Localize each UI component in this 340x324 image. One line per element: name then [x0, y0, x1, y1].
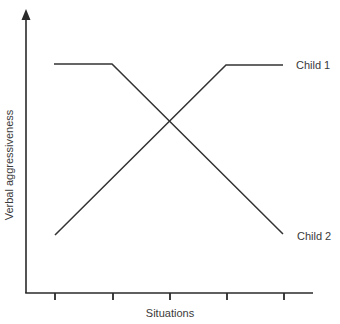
x-axis-ticks	[55, 293, 284, 300]
series-child-1-label: Child 1	[296, 59, 330, 71]
chart-canvas: Child 1 Child 2 Situations Verbal aggres…	[0, 0, 340, 324]
y-axis-arrow-icon	[22, 9, 31, 20]
x-axis-label: Situations	[146, 307, 195, 319]
y-axis-label: Verbal aggressiveness	[3, 109, 15, 220]
series-child-2-line	[54, 64, 283, 234]
series-child-1-line	[55, 65, 283, 235]
line-chart: Child 1 Child 2 Situations Verbal aggres…	[0, 0, 340, 324]
series-child-2-label: Child 2	[297, 230, 331, 242]
